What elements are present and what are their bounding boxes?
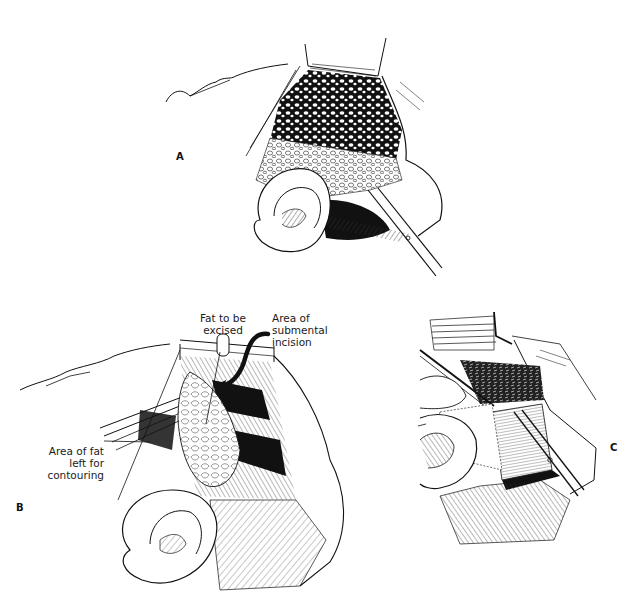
callout-fat-left-for-contouring: Area of fat left for contouring <box>10 445 104 481</box>
callout-line: Area of <box>272 312 362 324</box>
callout-submental-incision: Area of submental incision <box>272 312 362 348</box>
panel-a-label: A <box>176 151 184 162</box>
callout-line: excised <box>181 324 265 336</box>
callout-line: submental <box>272 324 362 336</box>
panel-c-label: C <box>610 442 617 453</box>
callout-fat-to-be-excised: Fat to be excised <box>181 312 265 336</box>
panel-c-illustration <box>420 300 636 550</box>
callout-line: contouring <box>10 469 104 481</box>
panel-c: C <box>420 300 636 550</box>
callout-line: Area of fat <box>10 445 104 457</box>
panel-b-label: B <box>16 502 24 513</box>
panel-a: A <box>150 30 470 280</box>
callout-line: incision <box>272 336 362 348</box>
panel-b: Fat to be excised Area of submental inci… <box>0 300 400 599</box>
callout-line: left for <box>10 457 104 469</box>
panel-a-illustration <box>150 30 470 280</box>
callout-line: Fat to be <box>181 312 265 324</box>
